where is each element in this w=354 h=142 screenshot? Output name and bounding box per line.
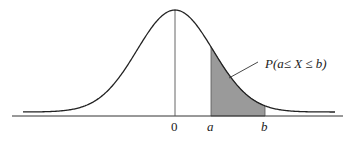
shaded-area	[211, 47, 265, 116]
tick-label-zero: 0	[171, 119, 178, 134]
normal-curve-diagram: P(a≤ X ≤ b) 0 a b	[0, 0, 354, 142]
probability-label: P(a≤ X ≤ b)	[264, 56, 327, 71]
tick-label-a: a	[207, 119, 214, 134]
tick-label-b: b	[261, 119, 268, 134]
annotation-leader	[229, 62, 258, 78]
